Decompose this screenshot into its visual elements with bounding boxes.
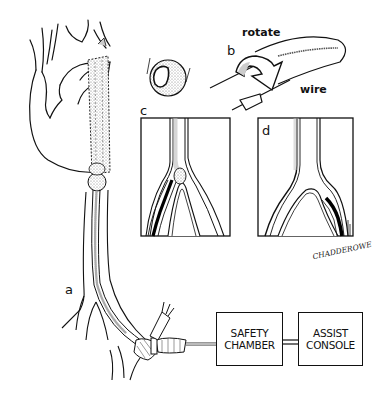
panel-label-b: b xyxy=(227,44,235,57)
safety-chamber-label: SAFETY CHAMBER xyxy=(224,327,275,351)
figure-canvas: a b c d rotate wire SAFETY CHAMBER ASSIS… xyxy=(0,0,380,396)
panel-label-a: a xyxy=(65,283,73,296)
panel-c-diagram xyxy=(141,118,230,236)
connector-line xyxy=(283,340,298,344)
panel-label-d: d xyxy=(262,124,270,137)
assist-console-block: ASSIST CONSOLE xyxy=(298,312,363,366)
vessel-cross-section xyxy=(147,58,190,96)
wire-annotation: wire xyxy=(300,84,327,95)
safety-chamber-block: SAFETY CHAMBER xyxy=(216,312,283,366)
panel-label-c: c xyxy=(140,104,147,117)
panel-d-diagram xyxy=(258,118,353,236)
assist-console-label: ASSIST CONSOLE xyxy=(306,327,355,351)
aortic-catheter xyxy=(88,38,110,191)
catheter-hub xyxy=(134,302,216,360)
rotate-annotation: rotate xyxy=(242,27,280,38)
